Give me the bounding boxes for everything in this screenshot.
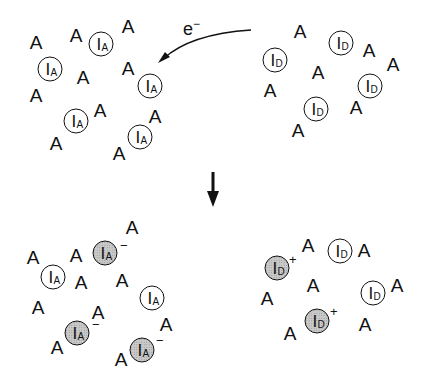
acceptor-site: A [307, 276, 320, 295]
electron-label: e− [183, 15, 200, 38]
acceptor-site: A [30, 86, 43, 105]
positive-charge: + [289, 253, 297, 266]
acceptor-site: A [302, 236, 315, 255]
acceptor-site: A [294, 22, 307, 41]
acceptor-site: A [116, 271, 129, 290]
donor-intercalant: ID [329, 31, 354, 56]
acceptor-site: A [94, 101, 107, 120]
acceptor-intercalant: IA [140, 286, 165, 311]
acceptor-site: A [51, 338, 64, 357]
electron-arrow-head-icon [158, 52, 170, 63]
electron-transfer-arrow [163, 30, 251, 59]
acceptor-site: A [113, 144, 126, 163]
acceptor-site: A [391, 276, 404, 295]
acceptor-intercalant: IA [128, 125, 153, 150]
donor-intercalant: ID [358, 74, 383, 99]
donor-intercalant: ID [328, 239, 353, 264]
acceptor-site: A [32, 298, 45, 317]
acceptor-site: A [126, 218, 139, 237]
acceptor-site: A [160, 315, 173, 334]
negative-charge: − [92, 318, 100, 331]
acceptor-site: A [387, 55, 400, 74]
reduced-acceptor-intercalant: IA [130, 338, 155, 363]
donor-intercalant: ID [361, 281, 386, 306]
donor-intercalant: ID [304, 97, 329, 122]
oxidized-donor-intercalant: ID [265, 256, 290, 281]
acceptor-site: A [284, 324, 297, 343]
reduced-acceptor-intercalant: IA [93, 241, 118, 266]
acceptor-site: A [363, 41, 376, 60]
process-arrow-down-icon [207, 191, 219, 207]
acceptor-site: A [115, 350, 128, 369]
acceptor-site: A [312, 63, 325, 82]
acceptor-site: A [122, 59, 135, 78]
acceptor-site: A [30, 33, 43, 52]
acceptor-intercalant: IA [38, 57, 63, 82]
electron-transfer-diagram: e− A A A A A A A A A A IA IA IA IA IA A … [0, 0, 429, 374]
acceptor-site: A [359, 315, 372, 334]
acceptor-site: A [50, 134, 63, 153]
acceptor-site: A [261, 289, 274, 308]
acceptor-site: A [70, 246, 83, 265]
acceptor-intercalant: IA [64, 109, 89, 134]
acceptor-site: A [292, 121, 305, 140]
acceptor-site: A [358, 241, 371, 260]
negative-charge: − [120, 239, 128, 252]
acceptor-site: A [75, 273, 88, 292]
acceptor-site: A [264, 81, 277, 100]
acceptor-site: A [70, 26, 83, 45]
donor-intercalant: ID [263, 48, 288, 73]
positive-charge: + [330, 305, 338, 318]
negative-charge: − [156, 334, 164, 347]
acceptor-site: A [27, 248, 40, 267]
acceptor-site: A [122, 17, 135, 36]
acceptor-intercalant: IA [138, 74, 163, 99]
acceptor-intercalant: IA [41, 265, 66, 290]
oxidized-donor-intercalant: ID [305, 309, 330, 334]
acceptor-site: A [350, 98, 363, 117]
acceptor-intercalant: IA [89, 32, 114, 57]
acceptor-site: A [77, 68, 90, 87]
reduced-acceptor-intercalant: IA [65, 321, 90, 346]
acceptor-site: A [149, 107, 162, 126]
